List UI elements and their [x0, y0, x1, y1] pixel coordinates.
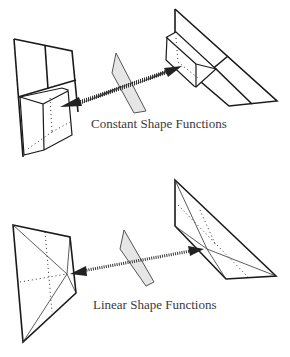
- bottom-left-panel: [13, 225, 76, 342]
- top-left-box: [20, 88, 72, 155]
- bottom-right-panel: [175, 180, 276, 279]
- bottom-left-pyramid-edges: [13, 225, 76, 342]
- bottom-projection-plane: [120, 230, 154, 286]
- bottom-left-pyramid-hidden: [20, 232, 67, 312]
- top-caption: Constant Shape Functions: [91, 116, 227, 132]
- bottom-caption: Linear Shape Functions: [93, 297, 216, 313]
